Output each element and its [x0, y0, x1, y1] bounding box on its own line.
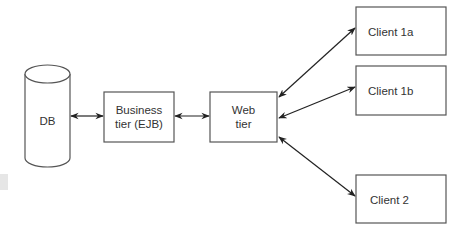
edge-web-client-1a	[279, 28, 355, 97]
db-node: DB	[25, 65, 70, 167]
edge-web-client-1b	[279, 87, 355, 118]
db-cylinder-top	[25, 65, 70, 83]
client-1a-node: Client 1a	[356, 7, 446, 55]
business-tier-label-line1: Business	[116, 104, 163, 116]
architecture-diagram: DB Business tier (EJB) Web tier Client 1…	[0, 0, 469, 233]
web-tier-box	[210, 92, 277, 142]
db-label: DB	[40, 115, 56, 127]
gray-mark	[0, 174, 8, 190]
client-1b-label: Client 1b	[368, 85, 413, 97]
web-tier-label-line2: tier	[236, 118, 252, 130]
business-tier-node: Business tier (EJB)	[104, 92, 174, 142]
web-tier-node: Web tier	[210, 92, 277, 142]
business-tier-label-line2: tier (EJB)	[115, 118, 163, 130]
business-tier-box	[104, 92, 174, 142]
client-2-node: Client 2	[356, 175, 446, 223]
web-tier-label-line1: Web	[232, 104, 255, 116]
client-1a-label: Client 1a	[368, 26, 414, 38]
edge-web-client-2	[279, 137, 355, 196]
client-1b-node: Client 1b	[356, 66, 446, 115]
client-2-label: Client 2	[370, 194, 409, 206]
